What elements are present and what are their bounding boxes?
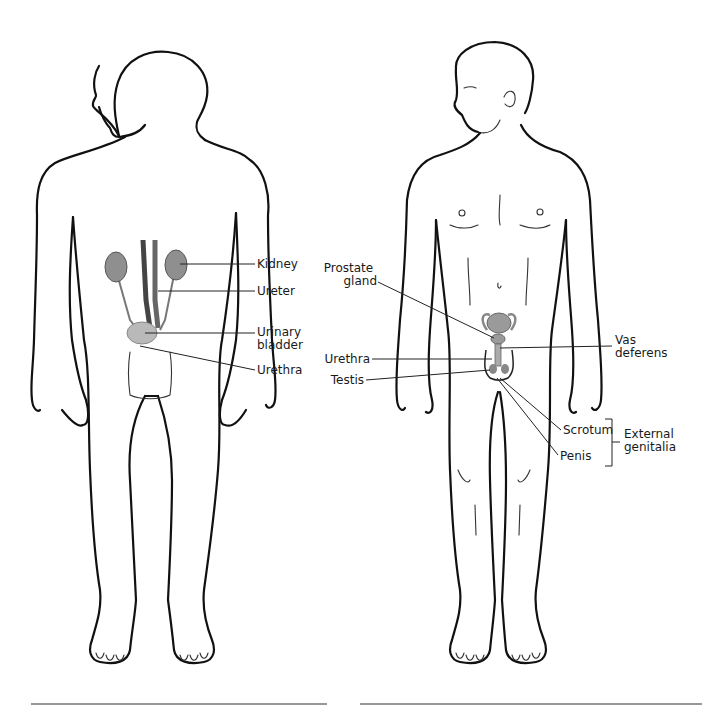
- label-vas-deferens: Vas deferens: [615, 333, 668, 360]
- label-testis: Testis: [330, 373, 364, 387]
- prostate-shape: [491, 334, 505, 344]
- left-kidney-shape: [105, 252, 127, 282]
- anatomy-diagram: Kidney Ureter Urinary bladder Urethra: [0, 0, 702, 705]
- label-penis: Penis: [560, 449, 591, 463]
- label-scrotum: Scrotum: [563, 423, 613, 437]
- label-urethra-right: Urethra: [325, 352, 370, 366]
- left-body-figure: [31, 52, 275, 663]
- label-urinary-bladder: Urinary bladder: [257, 325, 305, 352]
- label-external-genitalia: External genitalia: [624, 427, 678, 454]
- urinary-organs: [105, 240, 187, 344]
- label-urethra-left: Urethra: [257, 363, 302, 377]
- label-kidney: Kidney: [257, 257, 298, 271]
- right-kidney-shape: [165, 250, 187, 280]
- bladder-shape-right: [487, 313, 511, 333]
- label-prostate-gland: Prostate gland: [324, 261, 377, 288]
- label-ureter: Ureter: [257, 284, 295, 298]
